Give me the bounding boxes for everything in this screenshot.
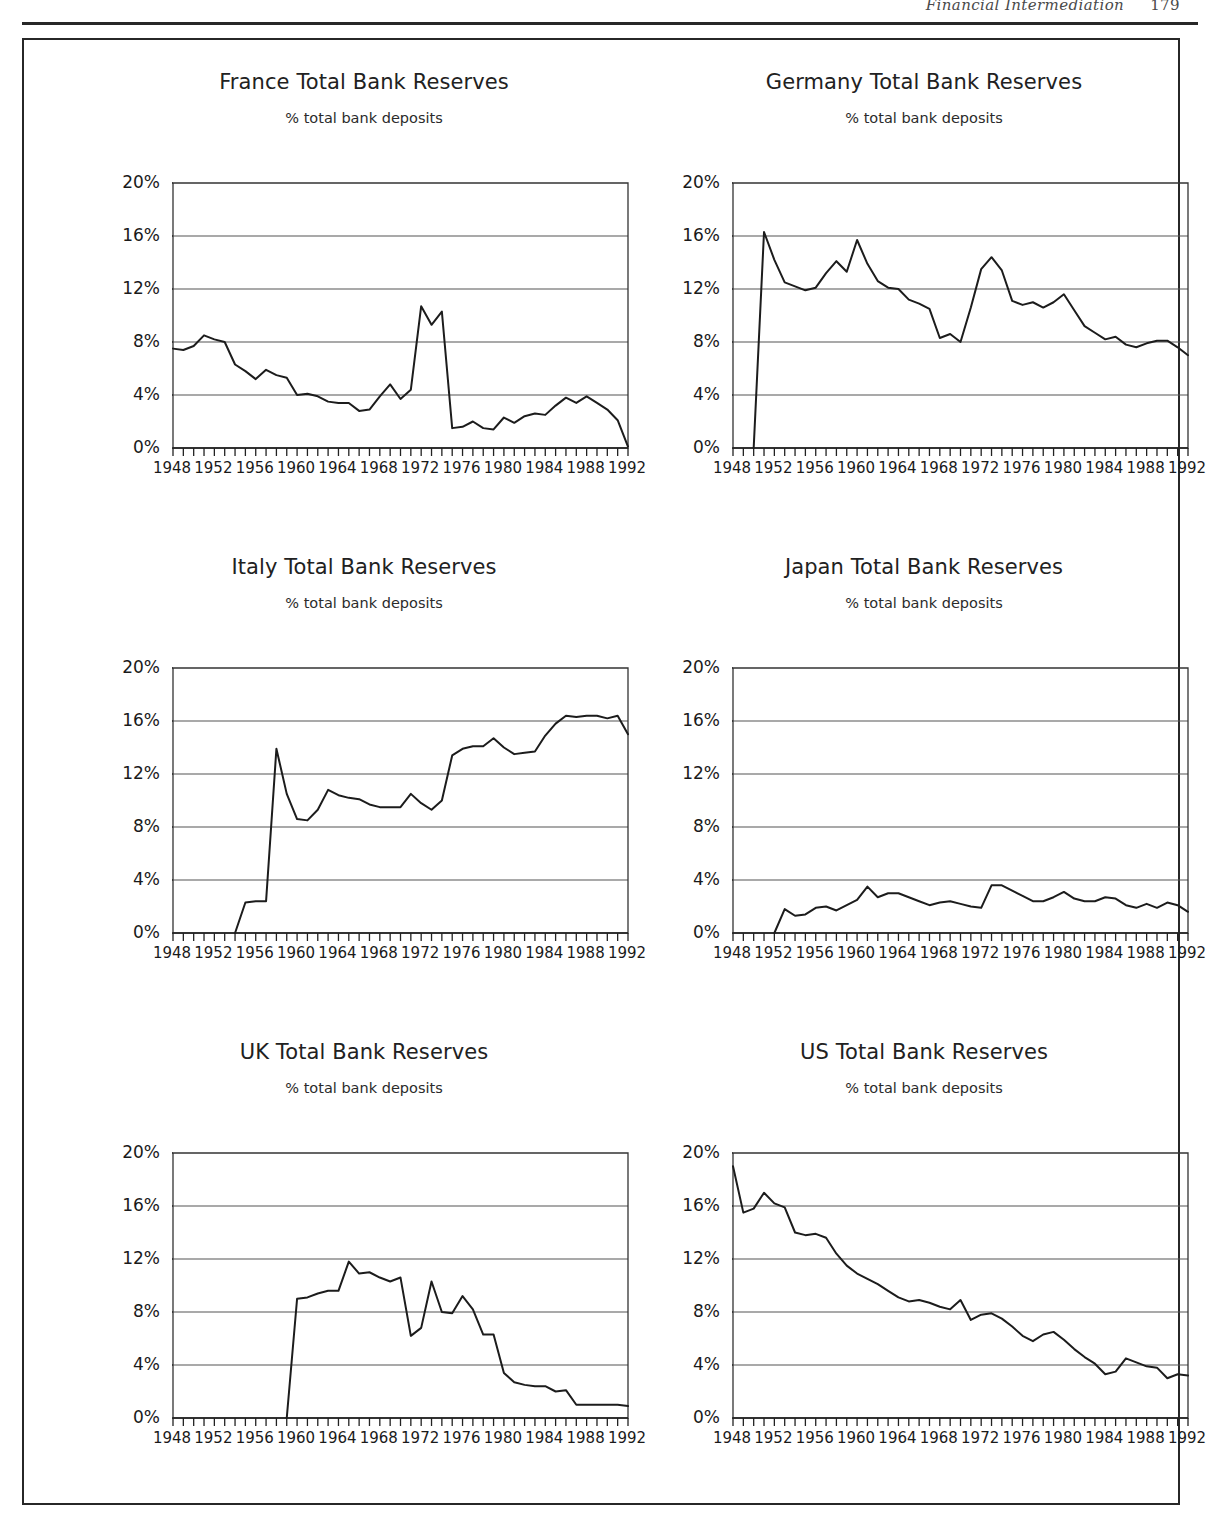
chart-title: Japan Total Bank Reserves [644, 555, 1204, 579]
y-axis-label: 8% [94, 333, 160, 350]
plot-area [732, 182, 1201, 465]
y-axis-label: 8% [654, 1303, 720, 1320]
y-axis-label: 16% [654, 1197, 720, 1214]
y-axis-label: 0% [94, 439, 160, 456]
data-series-line [235, 716, 628, 933]
chart-svg [172, 1152, 641, 1435]
y-axis-label: 4% [654, 386, 720, 403]
chart-title: France Total Bank Reserves [84, 70, 644, 94]
chart-panel: Italy Total Bank Reserves% total bank de… [84, 537, 644, 1022]
chart-panel: US Total Bank Reserves% total bank depos… [644, 1022, 1204, 1507]
y-axis-label: 12% [94, 765, 160, 782]
y-axis-label: 8% [654, 818, 720, 835]
data-series-line [733, 1166, 1188, 1378]
y-axis-label: 20% [654, 659, 720, 676]
y-axis-label: 0% [94, 924, 160, 941]
chart-svg [732, 667, 1201, 950]
data-series-line [754, 232, 1188, 448]
y-axis-label: 12% [94, 280, 160, 297]
chart-subtitle: % total bank deposits [644, 595, 1204, 611]
chart-title: UK Total Bank Reserves [84, 1040, 644, 1064]
y-axis-label: 0% [94, 1409, 160, 1426]
y-axis-label: 4% [94, 1356, 160, 1373]
x-axis-label: 1992 [1163, 461, 1211, 476]
y-axis-label: 20% [94, 174, 160, 191]
chart-panel: Germany Total Bank Reserves% total bank … [644, 52, 1204, 537]
y-axis-label: 4% [654, 1356, 720, 1373]
figure-frame: France Total Bank Reserves% total bank d… [22, 38, 1180, 1505]
data-series-line [774, 885, 1188, 933]
chart-subtitle: % total bank deposits [644, 110, 1204, 126]
page-number: 179 [1150, 0, 1180, 14]
y-axis-label: 0% [654, 1409, 720, 1426]
y-axis-label: 16% [94, 712, 160, 729]
header-rule [22, 22, 1198, 25]
y-axis-label: 4% [654, 871, 720, 888]
chart-title: Italy Total Bank Reserves [84, 555, 644, 579]
plot-frame [733, 1153, 1188, 1418]
y-axis-label: 20% [654, 174, 720, 191]
plot-frame [173, 668, 628, 933]
plot-area [172, 1152, 641, 1435]
plot-area [732, 667, 1201, 950]
y-axis-label: 12% [654, 765, 720, 782]
y-axis-label: 16% [94, 1197, 160, 1214]
chart-title: US Total Bank Reserves [644, 1040, 1204, 1064]
y-axis-label: 0% [654, 924, 720, 941]
chart-title: Germany Total Bank Reserves [644, 70, 1204, 94]
plot-frame [173, 183, 628, 448]
y-axis-label: 12% [654, 280, 720, 297]
plot-area [732, 1152, 1201, 1435]
y-axis-label: 20% [654, 1144, 720, 1161]
y-axis-label: 4% [94, 386, 160, 403]
chart-panel: UK Total Bank Reserves% total bank depos… [84, 1022, 644, 1507]
plot-frame [733, 668, 1188, 933]
chart-grid: France Total Bank Reserves% total bank d… [24, 40, 1178, 1503]
y-axis-label: 16% [94, 227, 160, 244]
plot-frame [173, 1153, 628, 1418]
running-head-title: Financial Intermediation [926, 0, 1124, 14]
y-axis-label: 12% [94, 1250, 160, 1267]
y-axis-label: 16% [654, 712, 720, 729]
running-head: Financial Intermediation179 [926, 0, 1180, 14]
plot-area [172, 182, 641, 465]
chart-svg [172, 182, 641, 465]
chart-panel: France Total Bank Reserves% total bank d… [84, 52, 644, 537]
plot-area [172, 667, 641, 950]
x-axis-label: 1992 [1163, 1431, 1211, 1446]
chart-subtitle: % total bank deposits [84, 110, 644, 126]
y-axis-label: 4% [94, 871, 160, 888]
data-series-line [173, 306, 628, 446]
plot-frame [733, 183, 1188, 448]
chart-panel: Japan Total Bank Reserves% total bank de… [644, 537, 1204, 1022]
y-axis-label: 12% [654, 1250, 720, 1267]
y-axis-label: 8% [654, 333, 720, 350]
chart-svg [732, 182, 1201, 465]
y-axis-label: 20% [94, 1144, 160, 1161]
y-axis-label: 8% [94, 818, 160, 835]
chart-subtitle: % total bank deposits [644, 1080, 1204, 1096]
y-axis-label: 16% [654, 227, 720, 244]
chart-svg [172, 667, 641, 950]
x-axis-label: 1992 [1163, 946, 1211, 961]
y-axis-label: 0% [654, 439, 720, 456]
chart-subtitle: % total bank deposits [84, 1080, 644, 1096]
data-series-line [287, 1262, 628, 1418]
chart-subtitle: % total bank deposits [84, 595, 644, 611]
y-axis-label: 20% [94, 659, 160, 676]
y-axis-label: 8% [94, 1303, 160, 1320]
chart-svg [732, 1152, 1201, 1435]
